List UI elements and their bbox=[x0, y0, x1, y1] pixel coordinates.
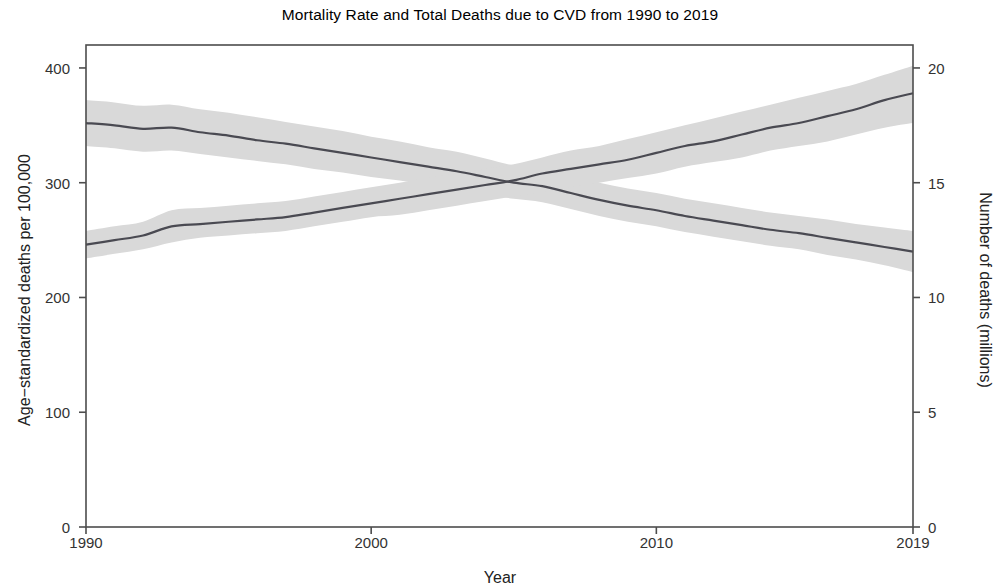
y-tick-label-right: 10 bbox=[928, 289, 976, 306]
y-tick-label-left: 100 bbox=[22, 404, 70, 421]
x-tick-label: 2010 bbox=[611, 534, 701, 551]
y-axis-right-ticks: 05101520 bbox=[928, 0, 980, 587]
x-tick-label: 2019 bbox=[868, 534, 958, 551]
y-tick-label-left: 300 bbox=[22, 174, 70, 191]
y-tick-label-right: 0 bbox=[928, 519, 976, 536]
y-tick-label-right: 15 bbox=[928, 174, 976, 191]
y-tick-label-right: 5 bbox=[928, 404, 976, 421]
plot-area bbox=[0, 0, 1000, 587]
x-tick-label: 2000 bbox=[326, 534, 416, 551]
y-tick-label-left: 0 bbox=[22, 519, 70, 536]
y-tick-label-left: 400 bbox=[22, 59, 70, 76]
confidence-bands bbox=[86, 66, 913, 273]
chart-title: Mortality Rate and Total Deaths due to C… bbox=[0, 6, 1000, 24]
cvd-mortality-chart-figure: Mortality Rate and Total Deaths due to C… bbox=[0, 0, 1000, 587]
y-tick-label-right: 20 bbox=[928, 59, 976, 76]
y-axis-left-ticks: 0100200300400 bbox=[18, 0, 70, 587]
x-axis-label: Year bbox=[0, 569, 1000, 587]
y-tick-label-left: 200 bbox=[22, 289, 70, 306]
x-tick-label: 1990 bbox=[41, 534, 131, 551]
